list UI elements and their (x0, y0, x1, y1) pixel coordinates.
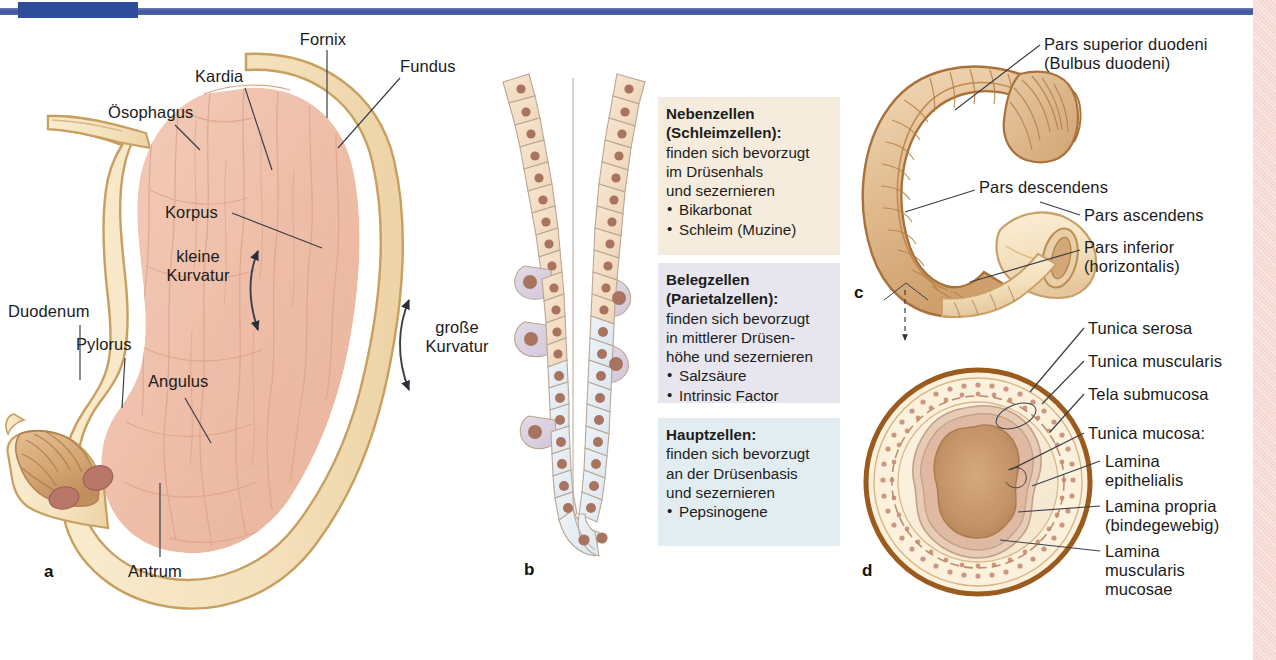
infobox-bullets: Bikarbonat Schleim (Muzine) (666, 200, 832, 239)
gastric-gland-illustration (495, 70, 670, 580)
infobox-nebenzellen: Nebenzellen (Schleimzellen): finden sich… (658, 97, 840, 255)
infobox-bullet: Intrinsic Factor (666, 386, 832, 405)
label-lamina-propria: Lamina propria (bindegewebig) (1105, 497, 1219, 535)
label-pylorus: Pylorus (76, 335, 132, 354)
label-tunica-muscularis: Tunica muscularis (1088, 352, 1222, 371)
label-pars-superior: Pars superior duodeni (Bulbus duodeni) (1044, 35, 1208, 73)
panel-letter-a: a (44, 562, 53, 582)
infobox-body: finden sich bevorzugt im Drüsenhals und … (666, 143, 832, 201)
infobox-bullet: Pepsinogene (666, 502, 832, 521)
duodenum-cut-edge (6, 414, 24, 434)
infobox-bullet: Bikarbonat (666, 200, 832, 219)
label-duodenum: Duodenum (8, 302, 90, 321)
infobox-bullets: Pepsinogene (666, 502, 832, 521)
label-kleine-kurvatur: kleine Kurvatur (148, 247, 248, 285)
label-antrum: Antrum (128, 562, 182, 581)
label-korpus: Korpus (165, 203, 218, 222)
infobox-bullet: Salzsäure (666, 366, 832, 385)
label-grosse-kurvatur: große Kurvatur (412, 318, 502, 356)
gut-wall-cross-section (858, 352, 1108, 617)
header-color-block (18, 2, 138, 18)
panel-letter-c: c (854, 283, 863, 303)
infobox-title: Belegzellen (Parietalzellen): (666, 270, 832, 309)
infobox-bullet: Schleim (Muzine) (666, 220, 832, 239)
infobox-bullets: Salzsäure Intrinsic Factor (666, 366, 832, 405)
header-rule (0, 8, 1253, 15)
infobox-belegzellen: Belegzellen (Parietalzellen): finden sic… (658, 263, 840, 403)
label-fornix: Fornix (268, 30, 378, 49)
figure-page: Fornix Fundus Kardia Ösophagus Korpus kl… (0, 0, 1276, 660)
label-lamina-muscularis-mucosae: Lamina muscularis mucosae (1105, 542, 1185, 599)
lumen-epithelium (934, 425, 1019, 538)
infobox-body: finden sich bevorzugt in mittlerer Drüse… (666, 309, 832, 367)
label-fundus: Fundus (400, 57, 456, 76)
label-pars-inferior: Pars inferior (horizontalis) (1084, 238, 1180, 276)
infobox-title: Hauptzellen: (666, 425, 832, 444)
label-oesophagus: Ösophagus (108, 103, 193, 122)
label-angulus: Angulus (148, 372, 208, 391)
label-tela-submucosa: Tela submucosa (1088, 385, 1209, 404)
panel-letter-d: d (862, 561, 872, 581)
panel-letter-b: b (524, 560, 534, 580)
gland-right-wall (578, 74, 645, 556)
label-tunica-mucosa: Tunica mucosa: (1088, 424, 1205, 443)
infobox-hauptzellen: Hauptzellen: finden sich bevorzugt an de… (658, 418, 840, 546)
label-tunica-serosa: Tunica serosa (1088, 319, 1192, 338)
label-lamina-epithelialis: Lamina epithelialis (1105, 452, 1183, 490)
label-kardia: Kardia (195, 67, 243, 86)
infobox-body: finden sich bevorzugt an der Drüsenbasis… (666, 444, 832, 502)
label-pars-descendens: Pars descendens (979, 178, 1108, 197)
infobox-title: Nebenzellen (Schleimzellen): (666, 104, 832, 143)
label-pars-ascendens: Pars ascendens (1084, 206, 1204, 225)
page-edge-strip (1253, 0, 1276, 660)
stomach-mucosa (101, 88, 359, 553)
